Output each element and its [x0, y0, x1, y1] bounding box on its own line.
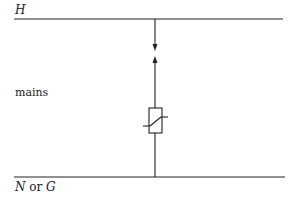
top-rail-label: H: [15, 4, 25, 16]
neutral-label: N: [15, 180, 26, 194]
circuit-diagram: [0, 0, 296, 201]
varistor-symbol: [143, 108, 168, 133]
bottom-rail-label: N or G: [15, 181, 56, 193]
ground-label: G: [46, 180, 56, 194]
arrow-down-icon: [153, 44, 158, 51]
spark-gap: [153, 19, 158, 108]
mains-label: mains: [15, 87, 48, 99]
or-label: or: [26, 180, 47, 194]
